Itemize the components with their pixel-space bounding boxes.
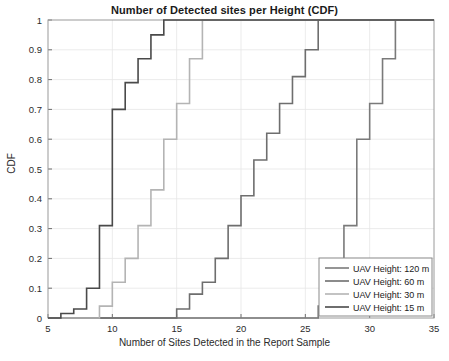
svg-text:0.3: 0.3: [29, 223, 42, 234]
svg-text:35: 35: [429, 323, 440, 334]
svg-text:5: 5: [45, 323, 50, 334]
svg-text:0.2: 0.2: [29, 253, 42, 264]
svg-text:20: 20: [236, 323, 247, 334]
svg-text:15: 15: [171, 323, 182, 334]
svg-text:30: 30: [364, 323, 375, 334]
chart-legend[interactable]: UAV Height: 120 mUAV Height: 60 mUAV Hei…: [319, 258, 432, 316]
svg-text:0.1: 0.1: [29, 283, 42, 294]
svg-text:0: 0: [37, 313, 42, 324]
svg-text:0.8: 0.8: [29, 74, 42, 85]
svg-text:0.4: 0.4: [29, 193, 42, 204]
plot-area: 510152025303500.10.20.30.40.50.60.70.80.…: [0, 0, 449, 361]
svg-text:25: 25: [300, 323, 311, 334]
svg-text:0.9: 0.9: [29, 44, 42, 55]
svg-text:0.7: 0.7: [29, 104, 42, 115]
legend-label-0: UAV Height: 120 m: [353, 264, 429, 274]
legend-label-1: UAV Height: 60 m: [353, 277, 424, 287]
legend-label-3: UAV Height: 15 m: [353, 303, 424, 313]
svg-text:0.6: 0.6: [29, 134, 42, 145]
legend-label-2: UAV Height: 30 m: [353, 290, 424, 300]
svg-text:1: 1: [37, 15, 42, 26]
chart-figure: Number of Detected sites per Height (CDF…: [0, 0, 449, 361]
svg-text:0.5: 0.5: [29, 164, 42, 175]
svg-text:10: 10: [107, 323, 118, 334]
